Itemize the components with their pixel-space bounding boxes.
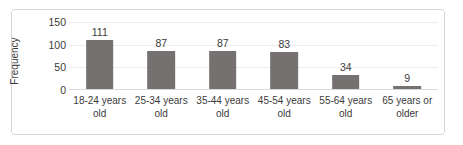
y-axis-title: Frequency xyxy=(8,24,22,98)
bar-value-label: 111 xyxy=(92,27,108,38)
bar[interactable] xyxy=(332,75,360,90)
y-axis-tick-label: 0 xyxy=(38,85,66,96)
bar-group: 34 xyxy=(315,22,377,90)
bar-series: 111878783349 xyxy=(69,22,438,90)
y-axis-tick-label: 100 xyxy=(38,40,66,51)
bar[interactable] xyxy=(270,52,298,90)
bar-value-label: 9 xyxy=(404,73,410,84)
bar-group: 87 xyxy=(131,22,193,90)
bar-value-label: 83 xyxy=(278,39,290,50)
y-axis-tick-label: 150 xyxy=(38,17,66,28)
bar-group: 87 xyxy=(192,22,254,90)
plot-area: 111878783349 xyxy=(69,22,438,90)
x-axis-category-label: 55-64 years old xyxy=(315,94,377,128)
bar[interactable] xyxy=(86,40,114,90)
bar[interactable] xyxy=(209,51,237,90)
bar-value-label: 34 xyxy=(340,62,352,73)
bar-group: 111 xyxy=(69,22,131,90)
x-axis-category-label: 35-44 years old xyxy=(192,94,254,128)
x-axis-category-label: 65 years or older xyxy=(377,94,439,128)
x-axis-category-label: 25-34 years old xyxy=(131,94,193,128)
x-axis-line xyxy=(69,89,438,90)
bar-group: 83 xyxy=(254,22,316,90)
bar-value-label: 87 xyxy=(155,38,167,49)
chart-frame: Frequency 050100150 111878783349 18-24 y… xyxy=(11,9,445,135)
bar-value-label: 87 xyxy=(217,38,229,49)
x-axis-category-label: 18-24 years old xyxy=(69,94,131,128)
bar-group: 9 xyxy=(377,22,439,90)
x-axis-category-label: 45-54 years old xyxy=(254,94,316,128)
y-axis-tick-labels: 050100150 xyxy=(38,17,66,93)
bar[interactable] xyxy=(147,51,175,90)
y-axis-tick-label: 50 xyxy=(38,62,66,73)
x-axis-category-labels: 18-24 years old25-34 years old35-44 year… xyxy=(69,94,438,128)
